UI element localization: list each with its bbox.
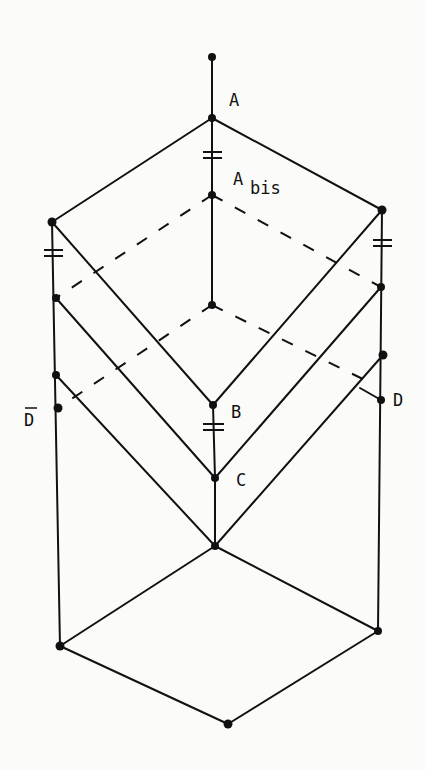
- label-B: B: [231, 402, 241, 422]
- node-R3: [379, 351, 388, 360]
- edge-M-BR: [215, 546, 378, 631]
- node-R1: [378, 206, 387, 215]
- node-L3: [52, 371, 60, 379]
- edge-right-vertical: [378, 210, 382, 631]
- node-M: [211, 542, 219, 550]
- edge-BL-BB: [60, 646, 228, 724]
- label-Abis-subscript: bis: [250, 178, 281, 198]
- label-D: D: [393, 390, 403, 410]
- node-BB: [224, 720, 233, 729]
- node-C: [211, 474, 219, 482]
- label-Abis: A: [233, 169, 243, 189]
- edge-A-L1: [52, 118, 212, 222]
- label-C: C: [236, 470, 246, 490]
- node-A: [208, 114, 216, 122]
- node-D: [377, 396, 385, 404]
- edge-A-R1: [212, 118, 382, 210]
- node-L2: [52, 294, 60, 302]
- edge-M-BL: [60, 546, 215, 646]
- edge-BR-BB: [228, 631, 378, 724]
- dashed-inner-Dbar: [58, 305, 212, 408]
- edge-R2-C: [215, 287, 381, 478]
- node-inner: [208, 301, 216, 309]
- dashed-Abis-L2: [56, 195, 212, 298]
- node-Abis: [208, 191, 216, 199]
- edge-B-C: [213, 405, 215, 478]
- node-BL: [56, 642, 65, 651]
- edge-L3-M: [56, 375, 215, 546]
- node-top: [208, 53, 216, 61]
- dashed-inner-D: [212, 305, 375, 385]
- edge-L1-B: [52, 222, 213, 405]
- node-BR: [374, 627, 382, 635]
- node-L1: [48, 218, 57, 227]
- edge-L2-C: [56, 298, 215, 478]
- lattice-diagram: A A bis B C D D: [0, 0, 426, 770]
- node-R2: [377, 283, 385, 291]
- label-A: A: [229, 90, 239, 110]
- edge-left-vertical: [52, 222, 60, 646]
- label-Dbar: D: [24, 410, 34, 430]
- node-B: [209, 401, 217, 409]
- node-Dbar: [54, 404, 63, 413]
